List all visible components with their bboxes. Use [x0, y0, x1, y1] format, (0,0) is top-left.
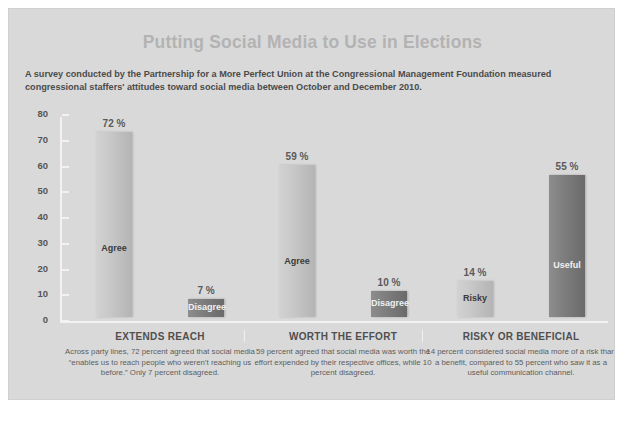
- y-axis-label: 50: [18, 185, 48, 196]
- bar-value-label: 7 %: [176, 285, 236, 296]
- bar-value-label: 14 %: [445, 267, 505, 278]
- bar-label: Agree: [279, 256, 315, 266]
- bar-agree[interactable]: Agree: [279, 165, 315, 317]
- bar-value-label: 55 %: [537, 161, 597, 172]
- subtitle-text: A survey conducted by the Partnership fo…: [25, 67, 574, 93]
- y-axis-label: 40: [18, 211, 48, 222]
- group-heading: EXTENDS REACH: [71, 331, 249, 342]
- page-title: Putting Social Media to Use in Elections: [33, 31, 591, 53]
- bar-value-label: 10 %: [359, 277, 419, 288]
- bar-chart: 01020304050607080 Agree72 %Disagree7 %Ag…: [9, 109, 615, 331]
- y-axis-label: 20: [18, 263, 48, 274]
- y-axis-label: 80: [18, 108, 48, 119]
- y-axis-tick: [62, 191, 69, 193]
- y-axis-tick: [62, 140, 69, 142]
- group-separator: [244, 330, 245, 342]
- group-heading: WORTH THE EFFORT: [254, 331, 432, 342]
- bar-value-label: 72 %: [84, 118, 144, 129]
- y-axis-tick: [62, 114, 69, 116]
- group-caption: 14 percent considered social media more …: [426, 347, 615, 379]
- y-axis-label: 70: [18, 134, 48, 145]
- y-axis-label: 60: [18, 160, 48, 171]
- y-axis-tick: [62, 217, 69, 219]
- group-caption: 59 percent agreed that social media was …: [248, 347, 438, 379]
- bar-disagree[interactable]: Disagree: [188, 299, 224, 317]
- bar-disagree[interactable]: Disagree: [371, 291, 407, 317]
- group-caption: Across party lines, 72 percent agreed th…: [65, 347, 255, 379]
- bar-label: Risky: [457, 293, 493, 303]
- y-axis-label: 30: [18, 237, 48, 248]
- bar-label: Disagree: [188, 302, 224, 312]
- y-axis-line: [60, 117, 62, 323]
- y-axis-tick: [62, 269, 69, 271]
- group-heading: RISKY OR BENEFICIAL: [432, 331, 610, 342]
- y-axis-label: 0: [18, 314, 48, 325]
- infographic-panel: Putting Social Media to Use in Elections…: [8, 8, 615, 400]
- bar-useful[interactable]: Useful: [549, 175, 585, 317]
- y-axis-tick: [62, 294, 69, 296]
- bar-label: Agree: [96, 243, 132, 253]
- x-axis-baseline: [60, 321, 608, 323]
- bar-label: Disagree: [371, 298, 407, 308]
- y-axis-tick: [62, 166, 69, 168]
- y-axis-tick: [62, 320, 69, 322]
- bar-label: Useful: [549, 260, 585, 270]
- bar-risky[interactable]: Risky: [457, 281, 493, 317]
- bar-agree[interactable]: Agree: [96, 132, 132, 317]
- y-axis-tick: [62, 243, 69, 245]
- bar-value-label: 59 %: [267, 151, 327, 162]
- group-separator: [422, 330, 423, 342]
- y-axis-label: 10: [18, 288, 48, 299]
